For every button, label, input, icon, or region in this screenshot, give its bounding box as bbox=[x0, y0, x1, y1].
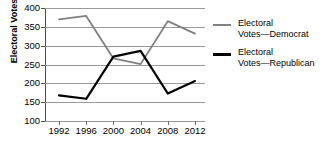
y-axis-tick-labels: 100150200250300350400 bbox=[14, 0, 40, 154]
electoral-votes-line-chart: Electoral Votes 100150200250300350400 19… bbox=[0, 0, 330, 154]
legend-label-democrat-line1: Electoral bbox=[238, 18, 330, 29]
legend-swatch-republican bbox=[213, 53, 231, 56]
chart-legend: Electoral Votes—Democrat Electoral Votes… bbox=[213, 18, 330, 76]
x-tick-label: 2012 bbox=[178, 126, 212, 136]
plot-area bbox=[45, 8, 205, 121]
series-line-democrat bbox=[59, 16, 195, 64]
legend-label-republican-line1: Electoral bbox=[238, 47, 330, 58]
series-line-republican bbox=[59, 51, 195, 99]
gridline bbox=[45, 121, 205, 122]
legend-label-democrat-line2: Votes—Democrat bbox=[238, 29, 330, 40]
y-tick-label: 250 bbox=[14, 60, 40, 70]
legend-label-democrat: Electoral Votes—Democrat bbox=[238, 18, 330, 40]
legend-item-republican: Electoral Votes—Republican bbox=[213, 47, 330, 69]
legend-label-republican-line2: Votes—Republican bbox=[238, 58, 330, 69]
y-tick-label: 350 bbox=[14, 22, 40, 32]
legend-label-republican: Electoral Votes—Republican bbox=[238, 47, 330, 69]
y-tick-label: 300 bbox=[14, 41, 40, 51]
y-tickmark bbox=[41, 121, 45, 122]
legend-swatch-democrat bbox=[213, 24, 231, 26]
legend-item-democrat: Electoral Votes—Democrat bbox=[213, 18, 330, 40]
y-tick-label: 100 bbox=[14, 116, 40, 126]
y-tick-label: 200 bbox=[14, 78, 40, 88]
y-tick-label: 150 bbox=[14, 97, 40, 107]
x-axis-tick-labels: 199219962000200420082012 bbox=[45, 126, 215, 142]
y-tick-label: 400 bbox=[14, 3, 40, 13]
series-lines bbox=[45, 8, 205, 121]
